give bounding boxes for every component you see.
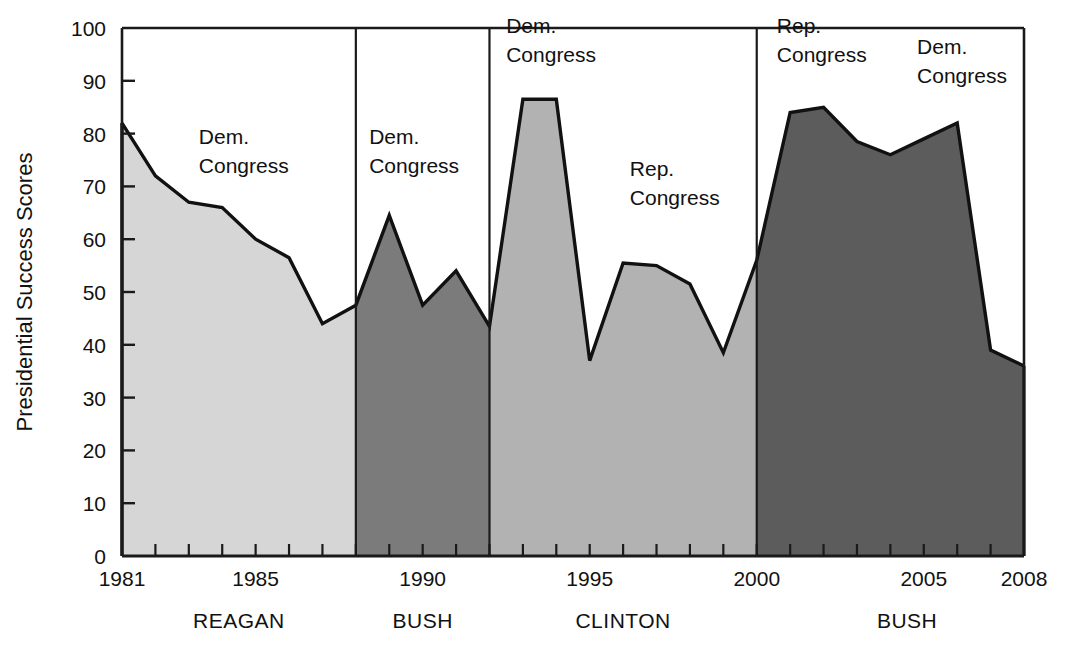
x-tick-label-1985: 1985 bbox=[232, 567, 279, 590]
era-label-bush-1: BUSH bbox=[392, 609, 452, 632]
annotation-5-line2: Congress bbox=[917, 64, 1007, 87]
y-tick-label-20: 20 bbox=[83, 439, 106, 462]
chart-figure: 0102030405060708090100 19811985199019952… bbox=[0, 0, 1070, 648]
annotation-0-line2: Congress bbox=[199, 154, 289, 177]
x-tick-label-2005: 2005 bbox=[900, 567, 947, 590]
y-tick-label-10: 10 bbox=[83, 492, 106, 515]
annotation-1-line2: Congress bbox=[369, 154, 459, 177]
y-tick-label-60: 60 bbox=[83, 228, 106, 251]
x-tick-label-1995: 1995 bbox=[566, 567, 613, 590]
y-tick-label-80: 80 bbox=[83, 123, 106, 146]
annotation-4-line2: Congress bbox=[777, 43, 867, 66]
annotation-2-line2: Congress bbox=[506, 43, 596, 66]
era-label-bush-3: BUSH bbox=[877, 609, 937, 632]
x-tick-label-2008: 2008 bbox=[1001, 567, 1048, 590]
y-tick-label-100: 100 bbox=[71, 17, 106, 40]
annotation-2-line1: Dem. bbox=[506, 14, 556, 37]
annotation-5-line1: Dem. bbox=[917, 35, 967, 58]
presidential-success-scores-area-chart: 0102030405060708090100 19811985199019952… bbox=[0, 0, 1070, 648]
y-axis-title: Presidential Success Scores bbox=[12, 153, 37, 432]
x-tick-label-1990: 1990 bbox=[399, 567, 446, 590]
era-label-clinton-2: CLINTON bbox=[575, 609, 670, 632]
annotation-3-line2: Congress bbox=[630, 186, 720, 209]
y-tick-label-50: 50 bbox=[83, 281, 106, 304]
era-label-reagan-0: REAGAN bbox=[193, 609, 285, 632]
y-tick-label-30: 30 bbox=[83, 387, 106, 410]
y-tick-label-70: 70 bbox=[83, 175, 106, 198]
y-tick-label-90: 90 bbox=[83, 70, 106, 93]
y-tick-label-40: 40 bbox=[83, 334, 106, 357]
x-tick-label-2000: 2000 bbox=[733, 567, 780, 590]
annotation-0-line1: Dem. bbox=[199, 125, 249, 148]
y-axis-title-label: Presidential Success Scores bbox=[12, 153, 37, 432]
annotation-3-line1: Rep. bbox=[630, 157, 674, 180]
x-tick-label-1981: 1981 bbox=[99, 567, 146, 590]
annotation-4-line1: Rep. bbox=[777, 14, 821, 37]
annotation-1-line1: Dem. bbox=[369, 125, 419, 148]
y-tick-label-0: 0 bbox=[94, 545, 106, 568]
